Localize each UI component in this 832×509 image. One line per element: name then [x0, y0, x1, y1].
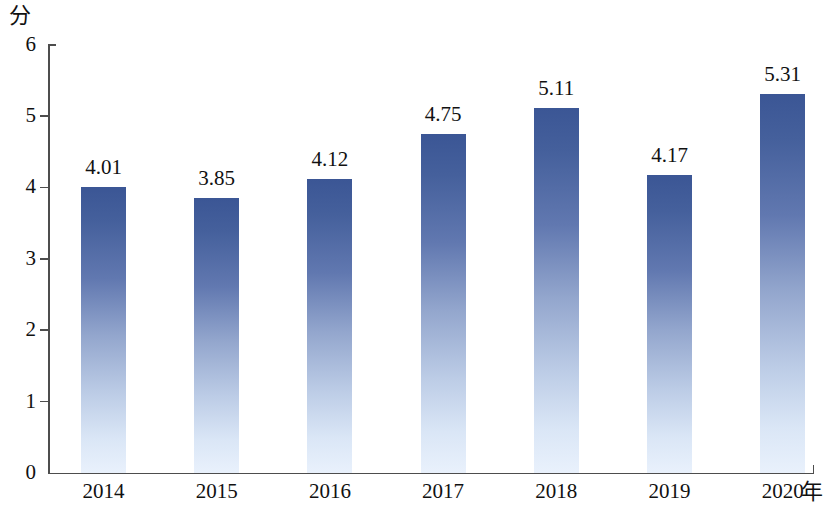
- x-axis-tick-label: 2014: [61, 481, 147, 502]
- bar: [760, 94, 805, 473]
- x-axis-tick-label: 2016: [287, 481, 373, 502]
- x-axis-tick-label: 2019: [627, 481, 713, 502]
- bar-value-label: 3.85: [174, 168, 260, 189]
- bar: [194, 198, 239, 473]
- bar-value-label: 4.75: [400, 104, 486, 125]
- x-axis-tick-label: 2020: [740, 481, 826, 502]
- x-axis-tick-label: 2015: [174, 481, 260, 502]
- bar: [81, 187, 126, 473]
- x-axis-tick-label: 2017: [400, 481, 486, 502]
- x-axis-tick-label: 2018: [513, 481, 599, 502]
- bar-value-label: 4.12: [287, 149, 373, 170]
- bar: [534, 108, 579, 473]
- bar: [647, 175, 692, 473]
- bars-layer: 4.0120143.8520154.1220164.7520175.112018…: [0, 0, 832, 509]
- bar: [421, 134, 466, 473]
- bar-value-label: 5.31: [740, 64, 826, 85]
- bar-value-label: 4.17: [627, 145, 713, 166]
- bar-value-label: 5.11: [513, 78, 599, 99]
- bar-value-label: 4.01: [61, 157, 147, 178]
- bar: [307, 179, 352, 473]
- bar-chart: 分 年 0123456 4.0120143.8520154.1220164.75…: [0, 0, 832, 509]
